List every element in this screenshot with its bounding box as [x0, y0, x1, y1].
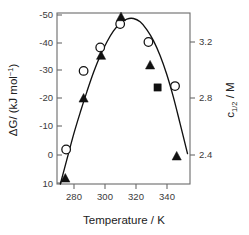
y2-axis-label-subscript: 1/2: [230, 101, 239, 111]
x-tick-label: 300: [97, 191, 113, 202]
data-markers: [61, 12, 182, 182]
y-tick-label: -40: [39, 37, 53, 48]
y2-axis-label-tail: / M: [224, 82, 236, 101]
data-point-open-circle: [96, 43, 105, 52]
data-point-open-circle: [62, 145, 71, 154]
y-tick-label: -50: [39, 9, 53, 20]
figure-container: -50 -40 -30 -20 -10 0 10 3.2 2.8 2.4 28: [0, 0, 249, 235]
y-tick-label: -30: [39, 64, 53, 75]
data-point-filled-triangle: [172, 151, 181, 160]
y2-tick-label: 2.4: [199, 149, 212, 160]
y-tick-label: 10: [42, 178, 53, 189]
y-axis-left-tick-labels: -50 -40 -30 -20 -10 0 10: [39, 9, 53, 189]
data-point-filled-triangle: [146, 60, 155, 69]
x-tick-label: 340: [159, 191, 175, 202]
plot-frame: [57, 13, 190, 184]
x-axis-ticks: [74, 184, 167, 189]
x-axis-tick-labels: 280 300 320 340: [66, 191, 175, 202]
y-axis-right-tick-labels: 3.2 2.8 2.4: [199, 36, 212, 160]
data-point-open-circle: [79, 67, 88, 76]
y-axis-right-ticks: [190, 42, 195, 155]
y-tick-label: -20: [39, 92, 53, 103]
y-tick-label: -10: [39, 120, 53, 131]
y-axis-label-main: ΔG/ (kJ mol: [7, 76, 19, 136]
y-axis-label: ΔG/ (kJ mol−1): [6, 64, 19, 137]
chart-svg: -50 -40 -30 -20 -10 0 10 3.2 2.8 2.4 28: [0, 0, 249, 235]
y2-axis-label: c1/2 / M: [224, 82, 239, 117]
data-point-open-circle: [144, 38, 153, 47]
y2-tick-label: 2.8: [199, 92, 212, 103]
y-axis-label-tail: ): [7, 64, 19, 68]
data-point-filled-triangle: [96, 51, 105, 60]
data-point-open-circle: [116, 20, 125, 29]
y-axis-left-ticks: [57, 15, 62, 183]
data-point-filled-triangle: [79, 94, 88, 103]
y-axis-label-superscript: −1: [6, 68, 15, 77]
x-tick-label: 280: [66, 191, 82, 202]
x-tick-label: 320: [128, 191, 144, 202]
x-axis-label: Temperature / K: [83, 214, 165, 226]
y-tick-label: 0: [48, 149, 53, 160]
data-point-filled-square: [154, 84, 161, 91]
y2-tick-label: 3.2: [199, 36, 212, 47]
data-point-open-circle: [171, 82, 180, 91]
